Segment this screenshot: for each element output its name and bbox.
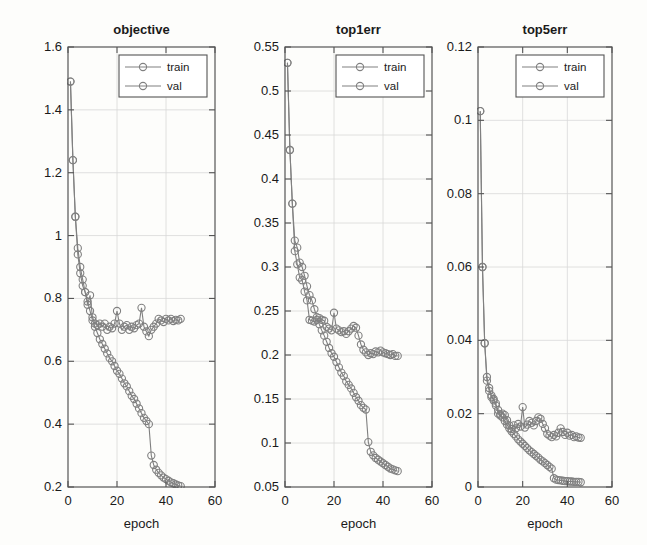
ytick-label: 0	[416, 479, 472, 494]
plot-area-top5err: trainval	[477, 46, 613, 488]
figure-canvas: objectivetrainval0.20.40.60.811.21.41.60…	[0, 0, 647, 545]
chart-panel-top5err: top5errtrainval00.020.040.060.080.10.120…	[0, 0, 647, 545]
xtick-label: 20	[503, 493, 543, 508]
xaxis-label-top5err: epoch	[478, 516, 612, 531]
legend-top5err: trainval	[516, 55, 604, 97]
legend-label-train: train	[564, 61, 586, 73]
ytick-label: 0.06	[416, 259, 472, 274]
xtick-label: 40	[547, 493, 587, 508]
legend-label-val: val	[564, 80, 579, 92]
ytick-label: 0.1	[416, 112, 472, 127]
xtick-label: 60	[592, 493, 632, 508]
series-val-top5err	[477, 108, 584, 442]
ytick-label: 0.04	[416, 332, 472, 347]
ytick-label: 0.02	[416, 406, 472, 421]
ytick-label: 0.08	[416, 186, 472, 201]
ytick-label: 0.12	[416, 39, 472, 54]
xtick-label: 0	[458, 493, 498, 508]
chart-title-top5err: top5err	[478, 22, 612, 37]
